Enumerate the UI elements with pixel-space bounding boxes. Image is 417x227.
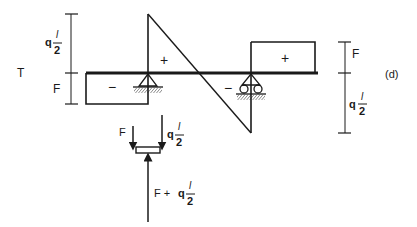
free-body-right-coef: q <box>167 128 174 140</box>
right-dim-lower-den: 2 <box>359 105 365 117</box>
sign-triangle-positive: + <box>160 52 168 68</box>
left-dim-upper-num: l <box>56 29 59 40</box>
left-dim-lower: F <box>53 82 60 96</box>
right-dim-lower-num: l <box>361 91 364 102</box>
reaction-den: 2 <box>187 195 193 207</box>
shear-force-diagram: − + − + T q l 2 F F q l 2 (d) F q l 2 F … <box>0 0 417 227</box>
free-body-right-num: l <box>178 121 181 132</box>
left-dim-upper-coef: q <box>45 36 52 48</box>
reaction-num: l <box>189 180 192 191</box>
free-body-right-den: 2 <box>176 136 182 148</box>
sign-right-positive: + <box>281 50 289 66</box>
reaction-coef: q <box>178 187 185 199</box>
right-dim-lower-coef: q <box>349 98 356 110</box>
free-body-left-force: F <box>119 126 126 138</box>
right-dim-upper: F <box>352 47 359 61</box>
sign-middle-negative: − <box>224 80 232 96</box>
right-dimension <box>338 42 351 133</box>
free-body-element <box>136 147 160 153</box>
diagram-label: T <box>17 66 25 80</box>
figure-label: (d) <box>385 68 398 80</box>
left-dimension <box>65 14 78 104</box>
left-dim-upper-den: 2 <box>54 44 60 56</box>
sign-left-negative: − <box>108 79 116 95</box>
reaction-prefix: F + <box>154 187 173 199</box>
